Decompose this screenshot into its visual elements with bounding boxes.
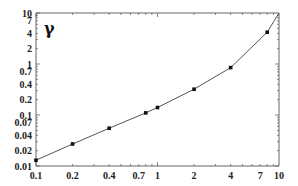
x-tick-label: 7 — [258, 170, 263, 181]
y-tick-label: 1 — [27, 59, 32, 70]
x-tick-label: 0.7 — [132, 170, 145, 181]
data-point-marker — [265, 30, 269, 34]
x-tick-label: 2 — [192, 170, 197, 181]
x-tick-label: 0.4 — [103, 170, 116, 181]
y-tick-label: 0.1 — [20, 110, 33, 121]
y-tick-label: 0.04 — [15, 130, 33, 141]
series-line — [36, 13, 279, 160]
y-tick-label: 0.2 — [20, 94, 33, 105]
x-tick-label: 4 — [228, 170, 233, 181]
y-tick-label: 0.4 — [20, 79, 33, 90]
chart-title-gamma: γ — [44, 19, 55, 38]
data-point-marker — [144, 111, 148, 115]
y-tick-label: 0.01 — [15, 161, 33, 172]
y-tick-label: 4 — [27, 28, 32, 39]
data-point-marker — [192, 87, 196, 91]
x-axis-ticks: 0.10.20.40.7124710 — [30, 13, 284, 181]
data-point-marker — [34, 158, 38, 162]
data-point-marker — [107, 126, 111, 130]
x-tick-label: 1 — [155, 170, 160, 181]
y-tick-label: 0.02 — [15, 145, 33, 156]
data-point-marker — [156, 106, 160, 110]
x-tick-label: 0.2 — [66, 170, 79, 181]
y-tick-label: 2 — [27, 43, 32, 54]
data-point-marker — [71, 142, 75, 146]
data-point-marker — [229, 66, 233, 70]
data-series — [34, 13, 279, 162]
x-tick-label: 0.1 — [30, 170, 43, 181]
x-tick-label: 10 — [274, 170, 284, 181]
y-tick-label: 10 — [22, 8, 32, 19]
log-log-line-chart: 0.10.20.40.7124710 0.010.020.040.070.10.… — [0, 0, 298, 186]
